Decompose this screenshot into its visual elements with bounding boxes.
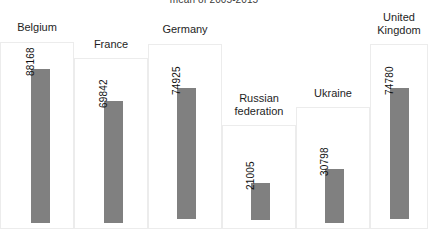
- chart-panel-belgium: Belgium 88168: [0, 42, 74, 229]
- panel-label-germany: Germany: [149, 23, 221, 36]
- bar-value-ukraine: 30798: [319, 147, 330, 176]
- panel-label-russian-federation: Russian federation: [223, 92, 295, 117]
- bar-ukraine[interactable]: [325, 169, 344, 223]
- bar-germany[interactable]: [177, 88, 196, 219]
- bar-value-russian-federation: 21005: [245, 161, 256, 190]
- panel-label-ukraine: Ukraine: [297, 87, 369, 100]
- panel-label-belgium: Belgium: [1, 21, 73, 34]
- bar-united-kingdom[interactable]: [390, 88, 409, 219]
- chart-panel-germany: Germany 74925: [148, 44, 222, 229]
- bar-value-united-kingdom: 74780: [384, 66, 395, 95]
- panel-label-france: France: [75, 38, 147, 51]
- bar-france[interactable]: [104, 101, 123, 223]
- chart-panel-france: France 69842: [74, 58, 148, 229]
- chart-panel-ukraine: Ukraine 30798: [296, 107, 370, 229]
- bar-belgium[interactable]: [31, 69, 50, 223]
- bar-value-germany: 74925: [171, 66, 182, 95]
- chart-panel-russian-federation: Russian federation 21005: [222, 125, 296, 229]
- bar-value-france: 69842: [98, 79, 109, 108]
- bar-value-belgium: 88168: [25, 47, 36, 76]
- panel-label-united-kingdom: United Kingdom: [371, 11, 427, 36]
- chart-panel-united-kingdom: United Kingdom 74780: [370, 44, 428, 229]
- bar-chart: mean of 2005-2015 Belgium 88168 France 6…: [0, 0, 428, 229]
- chart-title: mean of 2005-2015: [0, 0, 428, 5]
